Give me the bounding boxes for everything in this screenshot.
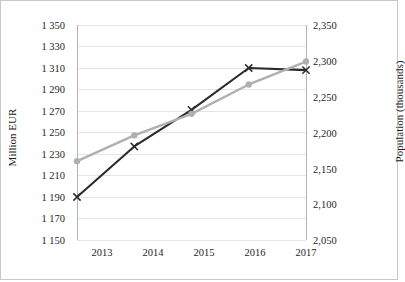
x-axis-tick-2016: 2016	[230, 248, 280, 259]
data-point-marker	[131, 143, 138, 150]
series-1	[73, 64, 309, 200]
x-axis-tick-2014: 2014	[128, 248, 178, 259]
y-axis-left-title: Million EUR	[7, 83, 18, 193]
data-point-marker	[303, 58, 309, 64]
data-point-marker	[188, 111, 194, 117]
x-axis-tick-2017: 2017	[281, 248, 331, 259]
data-point-marker	[131, 132, 137, 138]
series-layer	[1, 1, 399, 281]
x-axis-tick-2013: 2013	[77, 248, 127, 259]
x-axis-tick-2015: 2015	[179, 248, 229, 259]
data-point-marker	[246, 81, 252, 87]
data-point-marker	[74, 158, 80, 164]
chart-figure: 1 350 1 330 1 310 1 290 1 270 1 250 1 23…	[0, 0, 398, 280]
series-line	[77, 68, 306, 197]
data-point-marker	[73, 193, 80, 200]
y-axis-right-title: Population (thousands)	[394, 32, 405, 192]
series-2	[74, 58, 309, 164]
